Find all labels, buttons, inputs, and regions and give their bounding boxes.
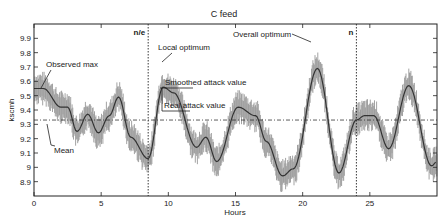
annotation-real-attack: Real attack value [164,101,226,110]
y-tick-label: 9.9 [20,34,32,43]
annotation-overall-optimum: Overall optimum [233,30,292,39]
y-tick-label: 9 [27,163,32,172]
x-tick-label: 25 [365,199,374,208]
annotation-mean: Mean [54,146,74,155]
y-tick-label: 9.5 [20,92,32,101]
y-tick-label: 9.7 [20,63,32,72]
y-tick-label: 9.6 [20,77,32,86]
y-tick-label: 9.4 [20,106,32,115]
chart: C feed n/en 8.999.19.29.39.49.59.69.79.8… [0,0,448,223]
chart-title: C feed [211,9,238,19]
raw-data-band [35,53,437,193]
x-axis-label: Hours [224,208,245,217]
annotation-observed-max: Observed max [46,60,98,69]
x-tick-label: 20 [298,199,307,208]
vertical-line-label: n/e [134,28,146,37]
annotation-local-optimum: Local optimum [158,43,210,52]
annotation-smoothed-attack: Smoothed attack value [165,78,247,87]
y-tick-label: 9.8 [20,49,32,58]
y-tick-label: 9.2 [20,135,32,144]
y-tick-label: 9.1 [20,149,32,158]
y-tick-label: 9.3 [20,120,32,129]
x-tick-label: 10 [164,199,173,208]
x-tick-label: 15 [231,199,240,208]
x-tick-label: 5 [99,199,104,208]
x-tick-label: 0 [32,199,37,208]
y-tick-label: 8.9 [20,178,32,187]
vertical-line-label: n [349,28,354,37]
y-axis-label: kscmh [7,98,16,121]
